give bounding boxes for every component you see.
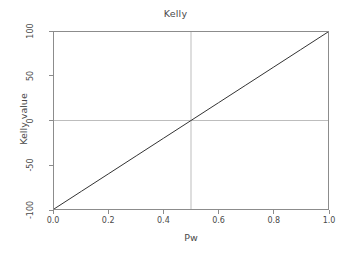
x-tick-mark: [273, 210, 274, 214]
y-tick-mark: [49, 120, 53, 121]
chart-container: Kelly 100500-50-100 0.00.20.40.60.81.0 P…: [0, 0, 351, 253]
x-tick-mark: [218, 210, 219, 214]
x-tick-label: 0.6: [204, 216, 234, 226]
x-tick-label: 0.4: [148, 216, 178, 226]
x-tick-label: 1.0: [314, 216, 344, 226]
x-tick-mark: [329, 210, 330, 214]
x-tick-mark: [163, 210, 164, 214]
y-tick-label: 100: [26, 18, 36, 44]
x-tick-label: 0.0: [38, 216, 68, 226]
x-tick-mark: [108, 210, 109, 214]
y-tick-mark: [49, 75, 53, 76]
y-tick-label: -100: [26, 197, 36, 223]
plot-area-svg: [54, 32, 328, 209]
plot-panel: [53, 31, 329, 210]
y-tick-mark: [49, 165, 53, 166]
x-tick-mark: [53, 210, 54, 214]
x-tick-label: 0.2: [93, 216, 123, 226]
x-axis-title: Pw: [53, 232, 329, 244]
y-axis-title: Kelly value: [18, 59, 30, 179]
chart-title: Kelly: [0, 8, 351, 20]
y-tick-mark: [49, 31, 53, 32]
x-tick-label: 0.8: [259, 216, 289, 226]
